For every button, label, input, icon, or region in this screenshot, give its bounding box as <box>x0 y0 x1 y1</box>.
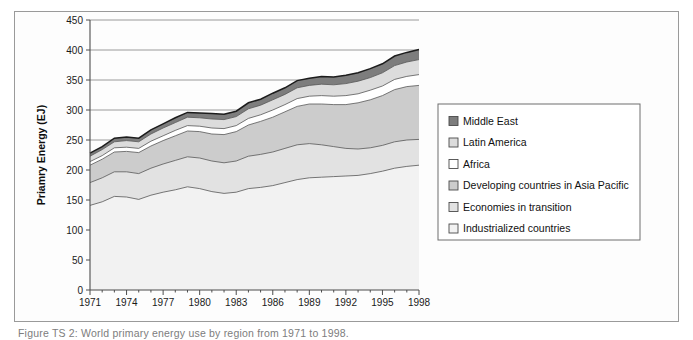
legend-swatch <box>449 181 458 190</box>
legend-swatch <box>449 138 458 147</box>
y-tick-label: 100 <box>66 225 83 236</box>
legend-swatch <box>449 160 458 169</box>
y-tick-label: 50 <box>72 255 84 266</box>
legend-label: Economies in transition <box>463 201 572 213</box>
x-tick-label: 1986 <box>262 297 285 308</box>
y-tick-label: 250 <box>66 135 83 146</box>
series-areas <box>90 49 419 290</box>
x-tick-label: 1980 <box>189 297 212 308</box>
legend-label: Middle East <box>463 115 518 127</box>
x-tick-label: 1998 <box>408 297 431 308</box>
y-tick-label: 200 <box>66 165 83 176</box>
x-tick-label: 1977 <box>152 297 175 308</box>
x-tick-label: 1974 <box>115 297 138 308</box>
y-tick-label: 400 <box>66 45 83 56</box>
x-axis-ticks: 1971197419771980198319861989199219951998 <box>79 290 431 308</box>
y-tick-label: 350 <box>66 75 83 86</box>
y-tick-label: 150 <box>66 195 83 206</box>
y-tick-label: 0 <box>77 285 83 296</box>
figure-caption: Figure TS 2: World primary energy use by… <box>18 327 678 339</box>
y-axis-title: Priamry Energy (EJ) <box>35 105 47 205</box>
y-tick-label: 300 <box>66 105 83 116</box>
legend-label: Africa <box>463 158 490 170</box>
x-tick-label: 1992 <box>335 297 358 308</box>
figure-frame: 0501001502002503003504004501971197419771… <box>14 11 679 322</box>
legend: Middle EastLatin AmericaAfricaDeveloping… <box>438 104 640 240</box>
legend-swatch <box>449 203 458 212</box>
y-axis-ticks: 050100150200250300350400450 <box>66 15 90 296</box>
legend-label: Developing countries in Asia Pacific <box>463 179 629 191</box>
legend-label: Industrialized countries <box>463 222 570 234</box>
x-tick-label: 1971 <box>79 297 102 308</box>
legend-swatch <box>449 224 458 233</box>
legend-swatch <box>449 117 458 126</box>
x-tick-label: 1989 <box>298 297 321 308</box>
legend-label: Latin America <box>463 136 527 148</box>
stacked-area-chart: 0501001502002503003504004501971197419771… <box>15 12 678 321</box>
x-tick-label: 1995 <box>371 297 394 308</box>
x-tick-label: 1983 <box>225 297 248 308</box>
y-tick-label: 450 <box>66 15 83 26</box>
